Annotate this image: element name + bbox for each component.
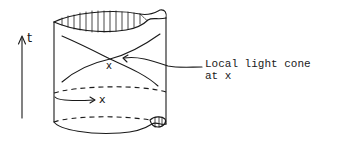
diagram-canvas (0, 0, 337, 144)
time-axis-label: t (27, 31, 32, 44)
space-arrow-label: x (99, 93, 106, 106)
space-arrow (55, 97, 95, 103)
annotation-line-1: Local light cone (205, 58, 311, 70)
spacetime-diagram: t x x Local light cone at x (0, 0, 337, 144)
event-marker: x (106, 59, 112, 72)
annotation-line-2: at x (205, 70, 231, 82)
bottom-front-arc (54, 122, 166, 133)
time-axis-arrow (19, 36, 26, 118)
bottom-dashed-ellipse (54, 117, 150, 122)
middle-dashed-ellipse (54, 87, 166, 93)
top-hatching (62, 11, 140, 32)
bottom-twist (150, 117, 166, 127)
annotation-leader (123, 55, 202, 67)
